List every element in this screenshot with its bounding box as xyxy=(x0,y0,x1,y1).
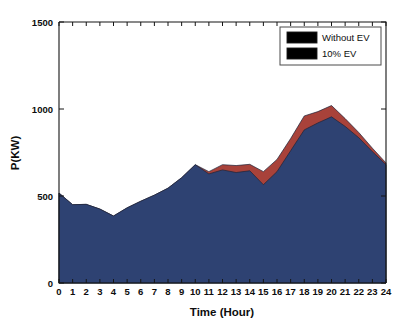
y-tick-label: 1500 xyxy=(32,17,53,28)
y-tick-label: 500 xyxy=(37,191,53,202)
x-tick-label: 15 xyxy=(258,286,269,297)
x-tick-label: 23 xyxy=(367,286,378,297)
x-tick-label: 20 xyxy=(326,286,337,297)
x-tick-label: 24 xyxy=(381,286,392,297)
x-tick-label: 22 xyxy=(353,286,364,297)
x-tick-label: 18 xyxy=(299,286,310,297)
x-tick-label: 19 xyxy=(313,286,324,297)
x-tick-label: 6 xyxy=(138,286,143,297)
x-tick-label: 12 xyxy=(217,286,228,297)
legend-swatch-10-percent-ev xyxy=(287,48,317,59)
x-tick-label: 17 xyxy=(285,286,296,297)
legend-label-without-ev: Without EV xyxy=(322,32,370,43)
chart-legend: Without EV 10% EV xyxy=(280,27,381,65)
x-tick-label: 14 xyxy=(244,286,255,297)
y-axis-title: P(KW) xyxy=(9,136,21,171)
x-tick-label: 8 xyxy=(165,286,170,297)
x-tick-label: 16 xyxy=(272,286,283,297)
x-tick-label: 4 xyxy=(111,286,117,297)
y-tick-label: 0 xyxy=(48,278,53,289)
legend-label-10-percent-ev: 10% EV xyxy=(322,48,357,59)
x-tick-label: 2 xyxy=(84,286,89,297)
x-tick-label: 13 xyxy=(231,286,242,297)
x-axis-title: Time (Hour) xyxy=(190,306,254,318)
chart-figure: 0123456789101112131415161718192021222324… xyxy=(0,0,404,328)
x-tick-label: 0 xyxy=(56,286,61,297)
x-tick-label: 3 xyxy=(97,286,102,297)
x-tick-label: 7 xyxy=(152,286,157,297)
x-tick-label: 10 xyxy=(190,286,201,297)
x-tick-label: 1 xyxy=(70,286,76,297)
x-tick-label: 11 xyxy=(204,286,215,297)
y-tick-label: 1000 xyxy=(32,104,53,115)
x-tick-label: 21 xyxy=(340,286,351,297)
area-chart: 0123456789101112131415161718192021222324… xyxy=(0,0,404,328)
x-tick-label: 5 xyxy=(124,286,130,297)
x-tick-label: 9 xyxy=(179,286,184,297)
legend-swatch-without-ev xyxy=(287,32,317,43)
